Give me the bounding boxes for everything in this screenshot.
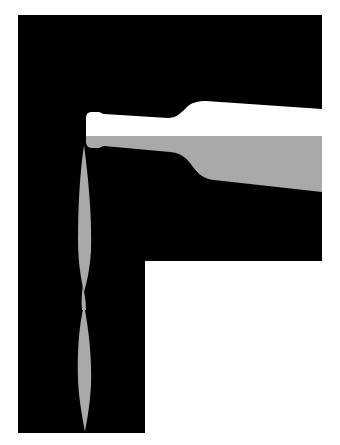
poster-artwork — [0, 0, 340, 445]
artwork-canvas — [0, 0, 340, 445]
